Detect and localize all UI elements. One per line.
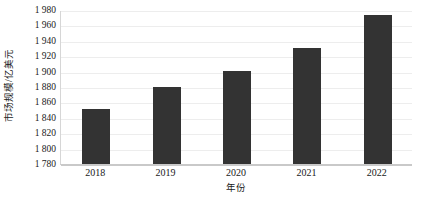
y-axis-tick-label: 1 940 — [35, 37, 56, 47]
x-axis-title: 年份 — [60, 184, 412, 194]
bar-2022 — [364, 15, 392, 164]
y-axis-tick-label: 1 900 — [35, 68, 56, 78]
y-axis-tick-label: 1 820 — [35, 129, 56, 139]
y-axis-title-text: 市场规模/亿美元 — [4, 50, 14, 123]
y-axis-title: 市场规模/亿美元 — [0, 0, 18, 172]
bar-2018 — [82, 109, 110, 164]
y-axis-tick-label: 1 920 — [35, 52, 56, 62]
y-axis-tick-label: 1 840 — [35, 114, 56, 124]
bar-2021 — [293, 48, 321, 164]
x-axis-tick-label: 2022 — [347, 168, 407, 178]
y-axis-tick-label: 1 880 — [35, 83, 56, 93]
x-axis-tick-label: 2020 — [206, 168, 266, 178]
bar-chart: 市场规模/亿美元 1 9801 9601 9401 9201 9001 8801… — [0, 0, 423, 202]
gridline — [61, 165, 412, 166]
bars-layer — [61, 11, 412, 164]
x-axis-tick-label: 2021 — [276, 168, 336, 178]
y-axis-tick-label: 1 860 — [35, 98, 56, 108]
plot-area — [60, 11, 412, 165]
y-axis-tick-labels: 1 9801 9601 9401 9201 9001 8801 8601 840… — [18, 0, 58, 172]
x-axis-tick-label: 2018 — [65, 168, 125, 178]
x-axis-tick-label: 2019 — [136, 168, 196, 178]
y-axis-tick-label: 1 960 — [35, 21, 56, 31]
y-axis-tick-label: 1 980 — [35, 6, 56, 16]
x-axis-tick-labels: 20182019202020212022 — [60, 168, 412, 184]
bar-2019 — [153, 87, 181, 164]
bar-2020 — [223, 71, 251, 164]
y-axis-tick-label: 1 780 — [35, 160, 56, 170]
y-axis-tick-label: 1 800 — [35, 145, 56, 155]
